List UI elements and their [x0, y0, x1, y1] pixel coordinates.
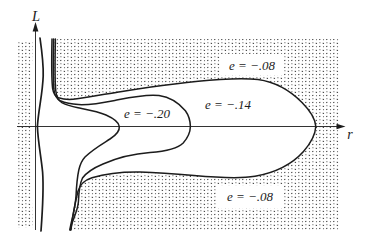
stipple-left-band [17, 41, 33, 228]
r-axis-label: r [347, 127, 353, 142]
label-e-minus-08-bottom: e = −.08 [227, 189, 274, 204]
left-boundary-line [37, 38, 43, 231]
label-e-minus-14: e = −.14 [205, 97, 252, 112]
r-axis-arrow [337, 124, 346, 129]
label-e-minus-08-top: e = −.08 [229, 58, 276, 73]
label-e-minus-20: e = −.20 [124, 106, 171, 121]
l-axis-label: L [31, 8, 40, 24]
figure-energy-contour-diagram: L r e = −.08 e = −.14 e = −.20 e = −.08 [0, 0, 371, 240]
stipple-forbidden-region [52, 39, 340, 230]
figure-canvas: L r e = −.08 e = −.14 e = −.20 e = −.08 [0, 0, 371, 240]
